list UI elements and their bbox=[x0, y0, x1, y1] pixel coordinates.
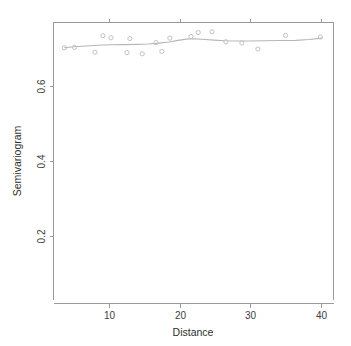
data-point bbox=[109, 36, 113, 40]
data-point bbox=[140, 52, 144, 56]
data-point bbox=[125, 51, 129, 55]
smoothed-trend-line bbox=[64, 38, 321, 48]
data-point bbox=[256, 47, 260, 51]
plot-frame bbox=[54, 23, 334, 300]
y-tick-label: 0.6 bbox=[36, 79, 47, 93]
data-point bbox=[189, 34, 193, 38]
data-point bbox=[101, 34, 105, 38]
data-point bbox=[283, 33, 287, 37]
x-axis-ticks bbox=[110, 304, 322, 308]
data-point bbox=[154, 40, 158, 44]
y-tick-label: 0.2 bbox=[36, 229, 47, 243]
x-tick-label: 30 bbox=[245, 310, 257, 321]
data-point bbox=[210, 30, 214, 34]
figure-container: 0.6 0.4 0.2 10 20 30 40 Distance bbox=[0, 0, 351, 346]
x-tick-label: 10 bbox=[104, 310, 116, 321]
data-point bbox=[93, 50, 97, 54]
data-points-layer bbox=[62, 30, 322, 56]
x-tick-label: 40 bbox=[316, 310, 328, 321]
y-tick-label: 0.4 bbox=[36, 154, 47, 168]
y-axis-title: Semivariogram bbox=[11, 125, 23, 196]
y-axis-ticks bbox=[50, 87, 54, 237]
data-point bbox=[168, 36, 172, 40]
x-tick-label: 20 bbox=[175, 310, 187, 321]
data-point bbox=[196, 30, 200, 34]
data-point bbox=[160, 49, 164, 53]
x-axis-tick-labels: 10 20 30 40 bbox=[104, 310, 328, 321]
data-point bbox=[128, 36, 132, 40]
y-axis-tick-labels: 0.6 0.4 0.2 bbox=[36, 79, 47, 243]
semivariogram-chart: 0.6 0.4 0.2 10 20 30 40 Distance bbox=[0, 0, 351, 346]
x-axis-title: Distance bbox=[173, 326, 214, 338]
top-axis-ticks bbox=[110, 19, 322, 23]
